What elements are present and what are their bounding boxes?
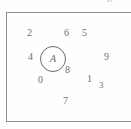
digit-6: 6 xyxy=(64,28,69,38)
digit-7: 7 xyxy=(63,96,68,106)
digit-9: 9 xyxy=(104,52,109,62)
node-a-circle: A xyxy=(40,46,66,72)
node-a-label: A xyxy=(41,47,65,71)
digit-5: 5 xyxy=(82,28,87,38)
figure-canvas: b 2654980137 A xyxy=(0,0,131,129)
digit-1: 1 xyxy=(87,74,92,84)
digit-3: 3 xyxy=(99,81,104,90)
digit-8: 8 xyxy=(65,65,70,75)
cut-off-glyph: b xyxy=(107,0,113,4)
digit-4: 4 xyxy=(28,52,33,62)
digit-0: 0 xyxy=(38,75,43,85)
digit-2: 2 xyxy=(27,28,32,38)
